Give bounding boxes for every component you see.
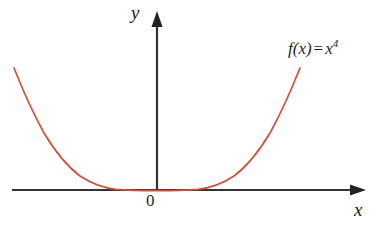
equation-operator: =	[312, 39, 326, 58]
equation-function-name: f(x)	[288, 39, 312, 58]
equation-base: x	[325, 39, 333, 58]
y-axis-arrowhead	[152, 11, 163, 27]
y-axis-label: y	[131, 3, 139, 22]
equation-exponent: 4	[333, 37, 339, 49]
curve-equation-label: f(x)=x4	[288, 38, 338, 57]
x-axis-arrowhead	[350, 185, 366, 196]
x-axis-label: x	[354, 200, 362, 219]
plot-canvas	[0, 0, 384, 229]
function-graph-figure: y x 0 f(x)=x4	[0, 0, 384, 229]
origin-label: 0	[146, 192, 155, 209]
